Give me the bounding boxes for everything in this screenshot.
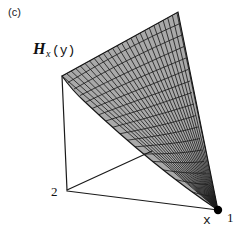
surface-plot [0, 0, 247, 237]
axis-vertical [62, 76, 67, 190]
function-symbol: H [33, 40, 46, 57]
vertex-dot [214, 206, 222, 214]
axis-x-label: x [203, 214, 211, 227]
axis-tick-label-2: 2 [51, 185, 58, 198]
function-label: Hx(y) [33, 41, 75, 59]
function-argument: (y) [52, 43, 75, 58]
axis-depth [67, 151, 152, 190]
axis-tick-label-1: 1 [227, 211, 234, 224]
panel-label: (c) [8, 7, 21, 18]
figure-container: (c) Hx(y) 2 1 x [0, 0, 247, 237]
